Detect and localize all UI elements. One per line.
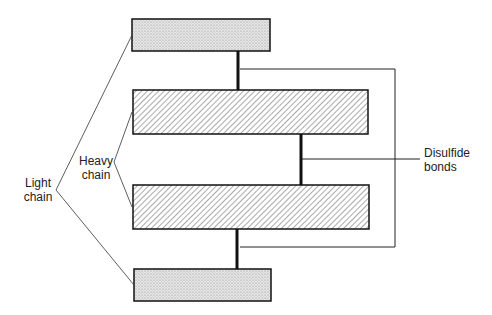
heavy-chain-label: Heavy chain xyxy=(76,154,116,182)
light-chain-label-line2: chain xyxy=(20,190,56,204)
light-chain-top xyxy=(132,19,270,51)
heavy-chain-label-line2: chain xyxy=(76,168,116,182)
disulfide-label-line2: bonds xyxy=(424,160,484,174)
light-chain-bottom xyxy=(134,269,271,301)
antibody-diagram xyxy=(0,0,492,315)
heavy-chain-bottom xyxy=(133,185,369,229)
heavy-chain-leader xyxy=(114,112,132,207)
disulfide-label-line1: Disulfide xyxy=(424,146,484,160)
light-chain-label-line1: Light xyxy=(20,176,56,190)
disulfide-bonds-label: Disulfide bonds xyxy=(424,146,484,174)
light-chain-label: Light chain xyxy=(20,176,56,204)
heavy-chain-top xyxy=(133,90,368,134)
heavy-chain-label-line1: Heavy xyxy=(76,154,116,168)
